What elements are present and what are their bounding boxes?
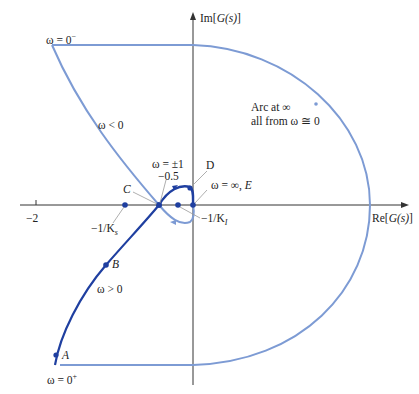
- label-omega-inf-e: ω = ∞, E: [211, 180, 252, 192]
- loop-arrow-lower: [170, 220, 176, 225]
- label-omega-zero-minus: ω = 0−: [46, 33, 76, 46]
- point-a: [53, 352, 58, 357]
- leader-d: [192, 171, 207, 186]
- point-c: [156, 202, 162, 208]
- leader-ks: [113, 207, 124, 223]
- label-omega-zero-plus: ω = 0+: [47, 373, 77, 386]
- point-b: [103, 262, 109, 268]
- label-minus-inv-ks: −1/Ks: [91, 223, 118, 237]
- label-minus-half: −0.5: [158, 171, 179, 183]
- arc-direction-marker: [314, 102, 318, 106]
- label-omega-negative: ω < 0: [98, 120, 124, 132]
- label-point-b: B: [112, 259, 119, 271]
- tick-label-minus-two: −2: [26, 213, 38, 225]
- label-omega-positive: ω > 0: [97, 284, 123, 296]
- leader-ki: [180, 207, 200, 218]
- label-arc-line1: Arc at ∞: [251, 102, 291, 114]
- point-minus-inv-ki: [175, 202, 181, 208]
- label-point-a: A: [62, 350, 69, 362]
- label-minus-inv-ki: −1/KI: [201, 213, 227, 227]
- label-arc-line2: all from ω ≅ 0: [251, 116, 320, 128]
- point-d: [187, 185, 192, 190]
- negative-branch-loop: [159, 205, 194, 223]
- label-point-d: D: [206, 160, 214, 172]
- point-e: [190, 202, 196, 208]
- point-minus-inv-ks: [122, 202, 128, 208]
- nyquist-plot: [0, 0, 419, 394]
- label-omega-pm-one: ω = ±1: [152, 159, 184, 171]
- label-point-c: C: [123, 184, 131, 196]
- real-axis-label: Re[G(s)]: [372, 213, 413, 225]
- imag-axis-label: Im[G(s)]: [200, 13, 241, 25]
- leader-e: [195, 190, 207, 203]
